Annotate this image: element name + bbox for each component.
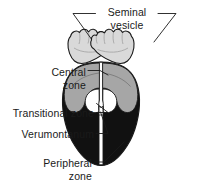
label-seminal-vesicle: Seminal vesicle	[96, 6, 158, 31]
label-central-zone-line1: Central	[22, 66, 86, 79]
label-seminal-vesicle-line1: Seminal	[96, 6, 158, 19]
label-peripheral-zone-line2: zone	[24, 170, 92, 183]
label-peripheral-zone: Peripheral zone	[24, 157, 92, 182]
label-central-zone: Central zone	[22, 66, 86, 91]
label-transitional-zone-line1: Transitional zone	[4, 107, 94, 120]
label-transitional-zone: Transitional zone	[4, 107, 94, 120]
label-central-zone-line2: zone	[22, 79, 86, 92]
label-seminal-vesicle-line2: vesicle	[96, 19, 158, 32]
prostate-zonal-anatomy-figure: Seminal vesicle Central zone Transitiona…	[0, 0, 202, 196]
label-verumontanum: Verumontanum	[8, 128, 94, 141]
label-verumontanum-line1: Verumontanum	[8, 128, 94, 141]
label-peripheral-zone-line1: Peripheral	[24, 157, 92, 170]
